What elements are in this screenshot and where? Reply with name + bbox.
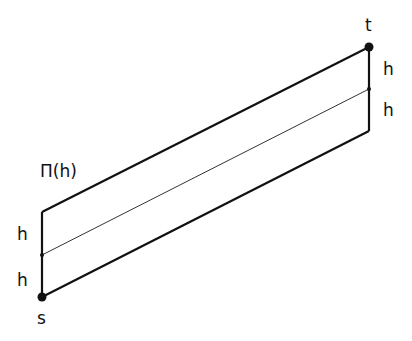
bottom-edge [42, 131, 369, 297]
top-edge [42, 47, 369, 212]
right-mid-point [367, 87, 371, 91]
source-point [38, 293, 47, 302]
right-upper-h-label: h [383, 59, 394, 79]
target-label: t [365, 15, 372, 35]
target-point [365, 43, 374, 52]
left-upper-h-label: h [17, 224, 28, 244]
source-label: s [37, 308, 46, 328]
left-mid-point [40, 253, 44, 257]
parallelogram-diagram: Π(h) h h s t h h [0, 0, 412, 341]
right-lower-h-label: h [383, 100, 394, 120]
left-lower-h-label: h [17, 270, 28, 290]
pi-h-label: Π(h) [40, 161, 77, 181]
middle-line [42, 89, 369, 255]
